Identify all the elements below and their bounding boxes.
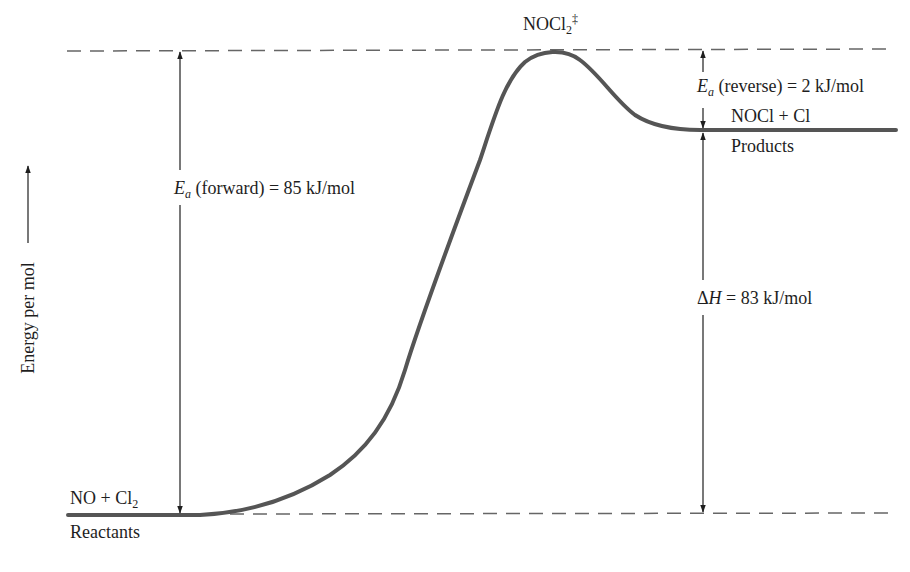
ea-forward-label: Ea (forward) = 85 kJ/mol <box>172 178 357 198</box>
ea-reverse-value: (reverse) = 2 kJ/mol <box>714 76 864 96</box>
transition-state-level-dashed-line <box>67 49 895 51</box>
reactants-subscript: 2 <box>132 497 138 511</box>
transition-state-formula: NOCl <box>523 14 566 34</box>
products-formula: NOCl + Cl <box>731 106 810 126</box>
reactant-level-dashed-line <box>230 513 895 514</box>
double-dagger-symbol: ‡ <box>572 12 578 26</box>
products-caption: Products <box>731 136 794 156</box>
reactants-formula-main: NO + Cl <box>70 488 132 508</box>
reactants-caption: Reactants <box>70 522 140 542</box>
enthalpy-symbol: H <box>709 288 722 308</box>
delta-h-label: ΔH = 83 kJ/mol <box>695 288 814 308</box>
ea-forward-value: (forward) = 85 kJ/mol <box>191 178 355 198</box>
energy-axis-label: Energy per mol <box>18 262 39 374</box>
ea-forward-symbol: E <box>174 178 185 198</box>
ea-reverse-symbol: E <box>697 76 708 96</box>
ea-reverse-label: Ea (reverse) = 2 kJ/mol <box>695 76 866 96</box>
reactants-formula: NO + Cl2 <box>70 488 138 508</box>
transition-state-label: NOCl2‡ <box>523 14 578 34</box>
delta-symbol: Δ <box>697 288 709 308</box>
delta-h-value: = 83 kJ/mol <box>722 288 813 308</box>
